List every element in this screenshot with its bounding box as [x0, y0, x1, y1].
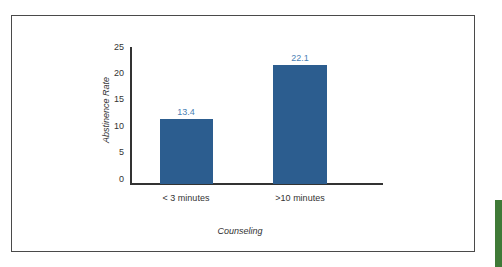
x-axis-title: Counseling	[190, 226, 290, 236]
bar-less-than-3-minutes	[160, 119, 213, 184]
y-tick-10: 10	[102, 121, 124, 131]
x-category-label: < 3 minutes	[136, 193, 236, 203]
bar-more-than-10-minutes	[273, 65, 327, 184]
y-tick-0: 0	[102, 174, 124, 184]
x-category-label: >10 minutes	[250, 193, 350, 203]
side-accent-block	[495, 200, 502, 267]
bar-value-label: 13.4	[156, 107, 216, 117]
bar-value-label: 22.1	[270, 53, 330, 63]
y-tick-25: 25	[102, 42, 124, 52]
y-tick-15: 15	[102, 94, 124, 104]
y-tick-20: 20	[102, 68, 124, 78]
chart-frame	[11, 15, 475, 252]
y-tick-5: 5	[102, 147, 124, 157]
y-axis-line	[130, 47, 132, 184]
